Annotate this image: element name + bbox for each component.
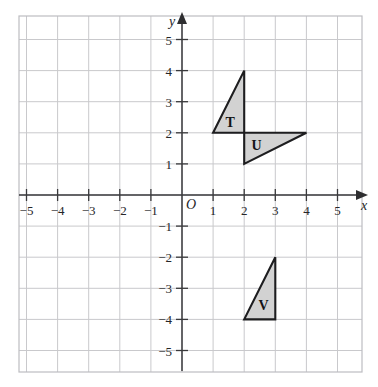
x-tick-label: −4 — [51, 203, 65, 218]
triangle-label-v: V — [258, 298, 268, 313]
y-tick-label: 1 — [166, 157, 173, 172]
y-tick-label: 5 — [166, 33, 173, 48]
coordinate-grid-figure: −5−4−3−2−112345 54321−1−2−3−4−5 O x y TU… — [0, 0, 378, 387]
origin-label: O — [186, 197, 196, 212]
y-tick-label: −1 — [158, 219, 172, 234]
x-tick-label: −5 — [20, 203, 34, 218]
figure-background — [0, 0, 378, 387]
x-tick-label: 1 — [210, 203, 217, 218]
y-axis-label: y — [167, 14, 176, 29]
y-tick-label: −4 — [158, 312, 172, 327]
x-tick-label: 4 — [303, 203, 310, 218]
x-tick-label: 2 — [241, 203, 248, 218]
x-tick-label: 3 — [272, 203, 279, 218]
y-tick-label: −5 — [158, 344, 172, 359]
y-tick-label: 3 — [166, 95, 173, 110]
x-axis-label: x — [360, 198, 368, 213]
x-tick-label: −1 — [144, 203, 158, 218]
y-tick-label: 2 — [166, 126, 173, 141]
y-tick-label: 4 — [166, 64, 173, 79]
x-tick-label: 5 — [334, 203, 341, 218]
x-tick-label: −2 — [113, 203, 127, 218]
triangle-label-u: U — [252, 138, 262, 153]
coordinate-plane-svg: −5−4−3−2−112345 54321−1−2−3−4−5 O x y TU… — [0, 0, 378, 387]
x-tick-label: −3 — [82, 203, 96, 218]
y-tick-label: −2 — [158, 250, 172, 265]
y-tick-label: −3 — [158, 281, 172, 296]
triangle-label-t: T — [226, 115, 236, 130]
